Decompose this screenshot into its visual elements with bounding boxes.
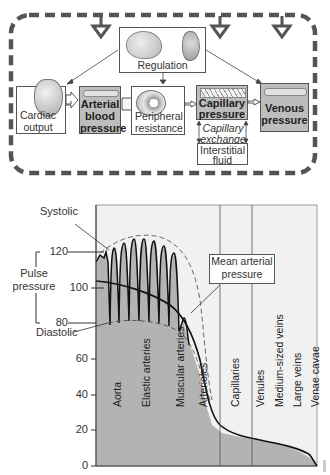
region-capillaries: Capillaries xyxy=(229,358,241,407)
edge-mark xyxy=(323,460,326,472)
mean-arterial-pressure-callout: Mean arterial pressure xyxy=(209,254,275,284)
region-arterioles: Arterioles xyxy=(197,363,209,407)
diastolic-label: Diastolic xyxy=(36,326,78,338)
region-venules: Venules xyxy=(254,370,266,407)
mean-arterial-label-2: pressure xyxy=(210,268,274,281)
ytick-120: 120 xyxy=(40,245,68,257)
region-large-veins: Large veins xyxy=(291,353,303,407)
region-elastic-arteries: Elastic arteries xyxy=(140,338,152,407)
ytick-20: 20 xyxy=(58,423,88,435)
ytick-40: 40 xyxy=(58,388,88,400)
pulse-pressure-label-2: pressure xyxy=(10,280,58,293)
pulse-pressure-label: Pulse pressure xyxy=(10,267,58,293)
mean-arterial-label-1: Mean arterial xyxy=(210,255,274,268)
region-aorta: Aorta xyxy=(111,382,123,407)
systolic-label: Systolic xyxy=(40,205,78,217)
ytick-100: 100 xyxy=(58,281,88,293)
ytick-60: 60 xyxy=(58,352,88,364)
region-muscular-arteries: Muscular arteries xyxy=(174,326,186,407)
pulse-pressure-label-1: Pulse xyxy=(10,267,58,280)
ytick-0: 0 xyxy=(58,459,88,471)
region-venae-cavae: Venae cavae xyxy=(309,346,321,407)
region-medium-sized-veins: Medium-sized veins xyxy=(273,314,285,407)
